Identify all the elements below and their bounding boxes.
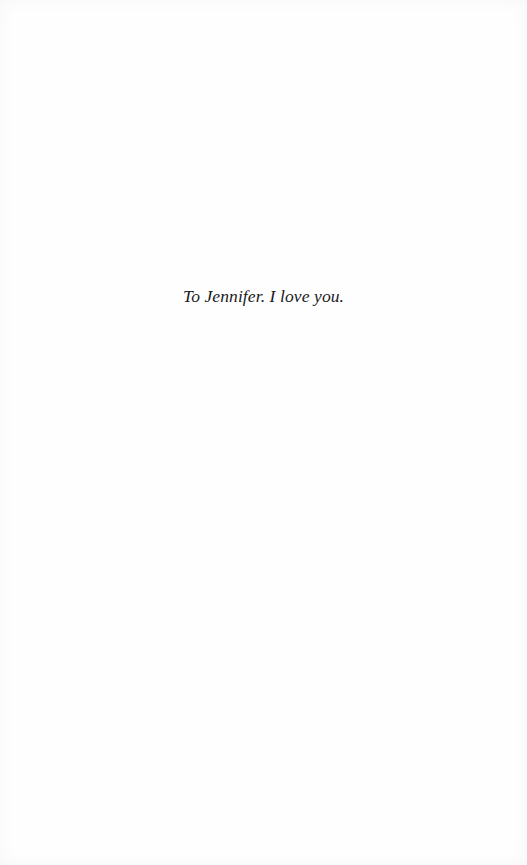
- book-page: To Jennifer. I love you.: [0, 0, 527, 865]
- dedication-text: To Jennifer. I love you.: [0, 284, 527, 308]
